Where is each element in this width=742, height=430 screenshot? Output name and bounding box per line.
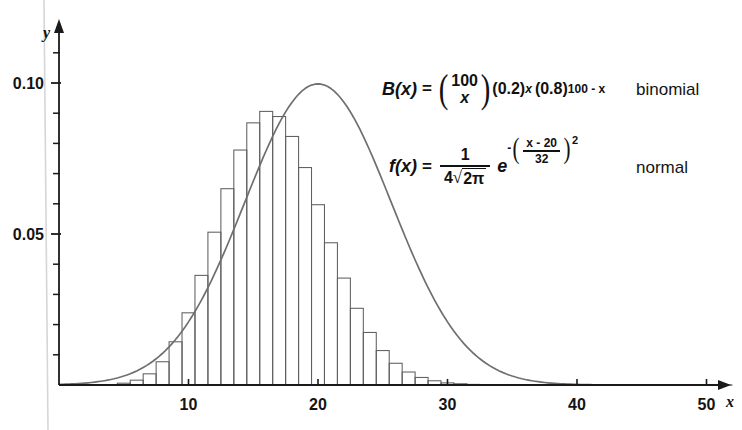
normal-equals-sign: =: [417, 157, 437, 177]
y-axis-letter: y: [41, 24, 51, 42]
binomial-k: x: [460, 89, 469, 106]
x-tick-label: 10: [180, 396, 198, 413]
normal-exponent: - ( x - 20 32 ) 2: [507, 137, 578, 166]
normal-coefficient-fraction: 1 4√2π: [440, 146, 490, 188]
fraction-bar: [440, 165, 490, 167]
binomial-q-base: (0.8): [535, 80, 568, 98]
x-axis-letter: x: [725, 393, 734, 410]
y-tick-label: 0.05: [13, 226, 44, 243]
exponent-minus-sign: -: [507, 141, 511, 155]
binomial-p-base: (0.2): [492, 80, 525, 98]
exponent-fraction: x - 20 32: [523, 137, 560, 166]
binomial-function-name: B(x): [382, 79, 417, 100]
normal-function-name: f(x): [389, 156, 417, 177]
exponent-numerator: x - 20: [523, 137, 560, 150]
x-tick-label: 30: [439, 396, 457, 413]
x-tick-label: 20: [309, 396, 327, 413]
exponent-power: 2: [572, 134, 578, 146]
binomial-n: 100: [451, 72, 478, 89]
left-paren-icon: (: [439, 73, 449, 105]
right-paren-icon: ): [481, 73, 491, 105]
binomial-coefficient: ( 100 x ): [437, 72, 492, 107]
distribution-chart: 10203040500.050.10 yx: [0, 0, 742, 430]
exponent-denominator: 32: [532, 153, 551, 166]
normal-coefficient-denominator: 4√2π: [440, 168, 490, 188]
radical-sign: √: [453, 168, 462, 188]
normal-coefficient-numerator: 1: [457, 146, 474, 164]
binomial-q-exponent: 100 - x: [568, 82, 605, 96]
normal-denominator-coefficient: 4: [444, 169, 453, 186]
normal-formula: f(x) = 1 4√2π e - ( x - 20 32 ) 2: [389, 146, 578, 188]
square-root-icon: √2π: [453, 168, 487, 188]
exponent-left-paren-icon: (: [513, 137, 520, 158]
binomial-equals-sign: =: [417, 79, 437, 99]
y-tick-label: 0.10: [13, 75, 44, 92]
exponent-right-paren-icon: ): [564, 137, 571, 158]
euler-e: e: [497, 156, 507, 177]
binomial-formula: B(x) = ( 100 x ) (0.2) x (0.8) 100 - x: [382, 72, 605, 107]
normal-legend-label: normal: [636, 158, 688, 178]
binomial-coefficient-stack: 100 x: [450, 72, 479, 107]
binomial-p-exponent: x: [525, 82, 532, 96]
normal-radicand: 2π: [462, 168, 486, 188]
x-tick-label: 50: [698, 396, 716, 413]
x-tick-label: 40: [568, 396, 586, 413]
binomial-legend-label: binomial: [636, 80, 699, 100]
chart-background: [0, 0, 742, 430]
